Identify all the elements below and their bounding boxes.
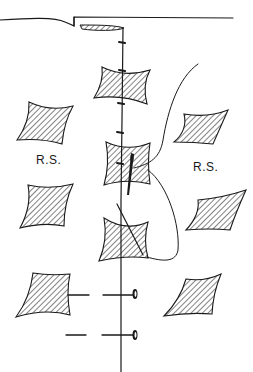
folded-hem (80, 25, 124, 30)
fabric-square-left-lower (20, 184, 73, 228)
label-right-side-right: R.S. (193, 160, 218, 174)
fabric-square-center-bottom (99, 218, 148, 261)
pin-upper (68, 289, 138, 299)
fabric-top-edge (0, 17, 233, 26)
fabric-square-right-bottom (164, 274, 221, 316)
fabric-square-right-lower (186, 190, 246, 230)
label-right-side-left: R.S. (36, 153, 61, 167)
sewing-illustration (0, 0, 253, 372)
fabric-square-left-upper (17, 102, 73, 144)
fabric-square-right-upper (174, 110, 228, 144)
pin-lower (66, 330, 138, 340)
fabric-square-left-bottom (16, 273, 70, 317)
fabric-square-center-middle (104, 142, 150, 185)
